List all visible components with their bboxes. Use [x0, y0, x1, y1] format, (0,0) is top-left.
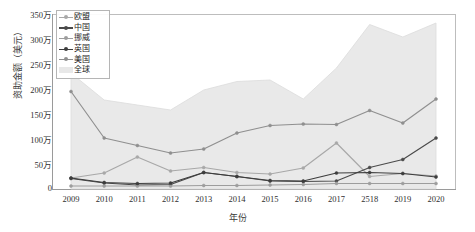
data-point — [368, 166, 371, 169]
legend-swatch-icon — [59, 55, 73, 64]
data-point — [70, 90, 73, 93]
legend-marker-icon — [64, 36, 68, 40]
data-point — [368, 182, 371, 185]
legend-swatch-icon — [59, 66, 73, 75]
data-point — [401, 158, 404, 161]
data-point — [401, 172, 404, 175]
legend-item-label: 欧盟 — [73, 12, 90, 22]
data-point — [169, 182, 172, 185]
data-point — [169, 170, 172, 173]
data-point — [368, 171, 371, 174]
legend-marker-icon — [64, 47, 68, 51]
data-point — [368, 175, 371, 178]
data-point — [269, 179, 272, 182]
data-point — [269, 184, 272, 187]
legend-item-全球[interactable]: 全球 — [59, 65, 107, 76]
data-point — [235, 175, 238, 178]
data-point — [103, 137, 106, 140]
data-point — [401, 122, 404, 125]
legend-marker-icon — [64, 15, 68, 19]
data-point — [202, 148, 205, 151]
legend-item-label: 挪威 — [73, 33, 90, 43]
legend-item-label: 中国 — [73, 23, 90, 33]
data-point — [235, 171, 238, 174]
data-point — [302, 183, 305, 186]
data-point — [302, 123, 305, 126]
data-point — [335, 142, 338, 145]
data-point — [435, 182, 438, 185]
legend-item-中国[interactable]: 中国 — [59, 23, 107, 34]
data-point — [103, 172, 106, 175]
legend-item-label: 美国 — [73, 55, 90, 65]
data-point — [401, 182, 404, 185]
data-point — [136, 182, 139, 185]
series-area-全球 — [71, 23, 436, 189]
data-point — [103, 181, 106, 184]
data-point — [435, 137, 438, 140]
data-point — [269, 124, 272, 127]
data-point — [235, 132, 238, 135]
data-point — [368, 109, 371, 112]
legend-marker-icon — [64, 26, 68, 30]
legend-swatch-icon — [59, 23, 73, 32]
legend-area-swatch — [59, 67, 73, 73]
data-point — [235, 184, 238, 187]
data-point — [302, 167, 305, 170]
x-axis-title: 年份 — [0, 211, 475, 224]
data-point — [335, 172, 338, 175]
data-point — [202, 166, 205, 169]
data-point — [335, 182, 338, 185]
legend-item-挪威[interactable]: 挪威 — [59, 33, 107, 44]
legend-swatch-icon — [59, 13, 73, 22]
legend-item-label: 英国 — [73, 44, 90, 54]
x-axis-tick-label: 2020 — [416, 194, 456, 204]
data-point — [169, 185, 172, 188]
data-point — [435, 98, 438, 101]
data-point — [202, 184, 205, 187]
data-point — [70, 185, 73, 188]
data-point — [335, 123, 338, 126]
data-point — [136, 144, 139, 147]
legend-item-英国[interactable]: 英国 — [59, 44, 107, 55]
legend-swatch-icon — [59, 45, 73, 54]
legend-item-label: 全球 — [73, 65, 90, 75]
data-point — [103, 185, 106, 188]
data-point — [70, 177, 73, 180]
data-point — [435, 176, 438, 179]
legend-swatch-icon — [59, 34, 73, 43]
data-point — [136, 156, 139, 159]
data-point — [269, 173, 272, 176]
chart-legend: 欧盟中国挪威英国美国全球 — [56, 10, 110, 79]
data-point — [302, 180, 305, 183]
data-point — [169, 152, 172, 155]
legend-item-欧盟[interactable]: 欧盟 — [59, 12, 107, 23]
data-point — [202, 171, 205, 174]
legend-item-美国[interactable]: 美国 — [59, 54, 107, 65]
line-chart: 资助金额（美元） 050万100万150万200万250万300万350万 20… — [0, 0, 475, 232]
legend-marker-icon — [64, 57, 68, 61]
